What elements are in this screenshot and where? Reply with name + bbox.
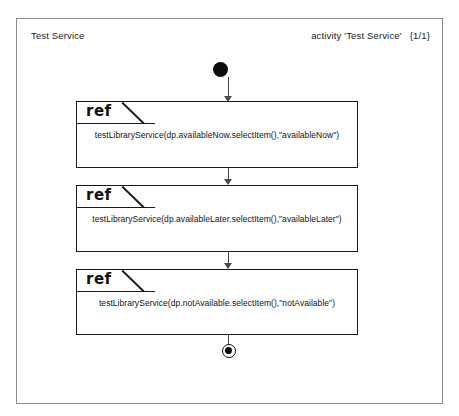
ref-box-2[interactable]: ref testLibraryService(dp.availableLater… [76,185,358,252]
ref-tab-diagonal-icon [122,186,145,208]
ref-tab-2: ref [77,186,155,208]
ref-tab-1: ref [77,102,155,124]
activity-frame-header: Test Service activity 'Test Service' {1/… [16,26,443,44]
ref-expression-1: testLibraryService(dp.availableNow.selec… [95,130,339,140]
ref-box-3[interactable]: ref testLibraryService(dp.notAvailable.s… [76,269,358,335]
page-counter: {1/1} [410,30,430,41]
ref-body-2: testLibraryService(dp.availableLater.sel… [77,207,357,251]
activity-name-label: activity 'Test Service' [311,30,402,41]
ref-tab-3: ref [77,270,155,292]
ref-keyword-label: ref [86,187,112,204]
activity-meta: activity 'Test Service' {1/1} [311,30,430,41]
ref-keyword-label: ref [86,271,112,288]
ref-tab-diagonal-icon [122,270,145,292]
ref-expression-2: testLibraryService(dp.availableLater.sel… [92,214,341,224]
initial-node-icon [213,62,228,77]
diagram-canvas: Test Service activity 'Test Service' {1/… [0,0,459,416]
ref-expression-3: testLibraryService(dp.notAvailable.selec… [99,298,335,308]
activity-final-node-core [225,347,232,354]
ref-body-3: testLibraryService(dp.notAvailable.selec… [77,291,357,334]
activity-final-node-icon [222,344,236,358]
ref-tab-diagonal-icon [122,102,145,124]
ref-box-1[interactable]: ref testLibraryService(dp.availableNow.s… [76,101,358,168]
ref-keyword-label: ref [86,103,112,120]
ref-body-1: testLibraryService(dp.availableNow.selec… [77,123,357,167]
page-title: Test Service [31,30,85,41]
